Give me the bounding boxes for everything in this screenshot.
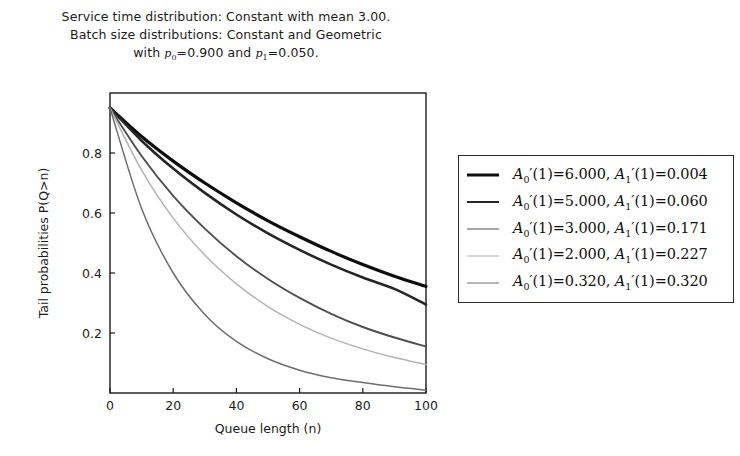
legend-item[interactable]: A0′(1)=6.000, A1′(1)=0.004	[465, 162, 725, 188]
series-line-3	[110, 108, 426, 365]
legend-item-label: A0′(1)=2.000, A1′(1)=0.227	[513, 246, 708, 265]
legend-item[interactable]: A0′(1)=2.000, A1′(1)=0.227	[465, 243, 725, 269]
x-axis-label: Queue length (n)	[215, 421, 322, 436]
legend-line-swatch	[465, 169, 501, 181]
legend-line-swatch	[465, 277, 501, 289]
legend-item-label: A0′(1)=0.320, A1′(1)=0.320	[513, 273, 708, 292]
legend-item[interactable]: A0′(1)=0.320, A1′(1)=0.320	[465, 270, 725, 296]
legend-item[interactable]: A0′(1)=5.000, A1′(1)=0.060	[465, 189, 725, 215]
series-line-1	[110, 108, 426, 305]
x-tick-label: 40	[228, 398, 244, 413]
x-tick-label: 80	[355, 398, 371, 413]
x-tick-label: 60	[292, 398, 308, 413]
x-tick-label: 100	[414, 398, 438, 413]
legend: A0′(1)=6.000, A1′(1)=0.004 A0′(1)=5.000,…	[458, 155, 734, 303]
legend-line-swatch	[465, 250, 501, 262]
legend-line-swatch	[465, 196, 501, 208]
y-tick-label: 0.8	[82, 146, 102, 161]
y-axis-label: Tail probabilities P(Q>n)	[36, 168, 51, 320]
series-line-0	[110, 108, 426, 287]
series-line-2	[110, 108, 426, 347]
legend-item[interactable]: A0′(1)=3.000, A1′(1)=0.171	[465, 216, 725, 242]
y-tick-label: 0.4	[82, 266, 102, 281]
legend-item-label: A0′(1)=5.000, A1′(1)=0.060	[513, 193, 708, 212]
y-tick-label: 0.2	[82, 326, 102, 341]
legend-item-label: A0′(1)=3.000, A1′(1)=0.171	[513, 220, 708, 239]
figure-canvas: Service time distribution: Constant with…	[0, 0, 740, 456]
legend-line-swatch	[465, 223, 501, 235]
x-tick-label: 20	[165, 398, 181, 413]
x-tick-label: 0	[106, 398, 114, 413]
y-tick-label: 0.6	[82, 206, 102, 221]
legend-item-label: A0′(1)=6.000, A1′(1)=0.004	[513, 166, 708, 185]
